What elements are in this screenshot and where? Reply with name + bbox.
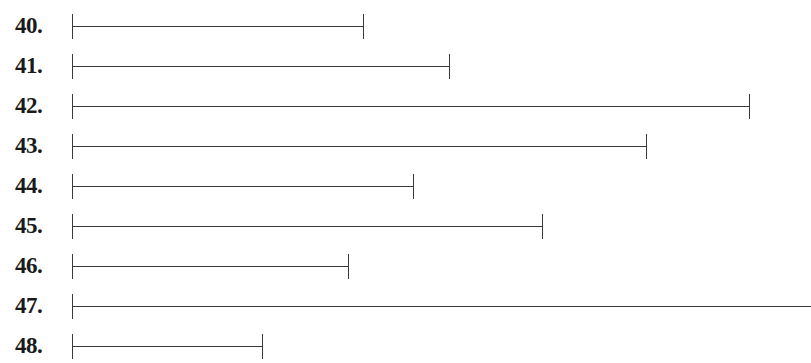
segment-number-label: 46. — [15, 253, 42, 279]
segment-row: 40. — [0, 26, 811, 66]
end-tick — [449, 54, 450, 79]
segment-number-label: 48. — [15, 333, 42, 359]
line-segment — [72, 106, 749, 107]
segment-number-label: 40. — [15, 13, 42, 39]
end-tick — [348, 254, 349, 279]
start-tick — [72, 94, 73, 119]
segment-row: 42. — [0, 106, 811, 146]
segment-row: 43. — [0, 146, 811, 186]
start-tick — [72, 54, 73, 79]
end-tick — [262, 334, 263, 359]
segment-number-label: 45. — [15, 213, 42, 239]
start-tick — [72, 14, 73, 39]
end-tick — [542, 214, 543, 239]
line-segment — [72, 186, 413, 187]
start-tick — [72, 214, 73, 239]
line-segment — [72, 266, 348, 267]
segment-row: 44. — [0, 186, 811, 226]
start-tick — [72, 174, 73, 199]
segment-row: 41. — [0, 66, 811, 106]
end-tick — [749, 94, 750, 119]
segment-row: 48. — [0, 346, 811, 363]
segment-number-label: 44. — [15, 173, 42, 199]
segment-number-label: 41. — [15, 53, 42, 79]
line-segment — [72, 66, 449, 67]
end-tick — [646, 134, 647, 159]
segment-number-label: 47. — [15, 293, 42, 319]
segment-row: 47. — [0, 306, 811, 346]
segment-number-label: 43. — [15, 133, 42, 159]
start-tick — [72, 334, 73, 359]
line-segment — [72, 26, 363, 27]
segment-row: 45. — [0, 226, 811, 266]
line-segment — [72, 146, 646, 147]
start-tick — [72, 254, 73, 279]
line-segment — [72, 346, 262, 347]
segment-number-label: 42. — [15, 93, 42, 119]
start-tick — [72, 134, 73, 159]
start-tick — [72, 294, 73, 319]
line-segment — [72, 226, 542, 227]
segment-row: 46. — [0, 266, 811, 306]
line-segment — [72, 306, 811, 307]
end-tick — [413, 174, 414, 199]
end-tick — [363, 14, 364, 39]
